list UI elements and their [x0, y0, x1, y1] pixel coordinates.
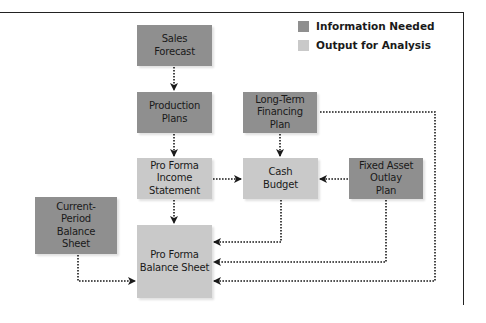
- node-label: Fixed Asset Outlay Plan: [359, 160, 413, 198]
- node-current-period-balance-sheet: Current- Period Balance Sheet: [35, 197, 117, 254]
- node-pro-forma-balance-sheet: Pro Forma Balance Sheet: [137, 225, 212, 298]
- node-label: Production Plans: [149, 100, 200, 125]
- node-pro-forma-income-statement: Pro Forma Income Statement: [137, 158, 212, 199]
- node-production-plans: Production Plans: [137, 92, 212, 133]
- node-cash-budget: Cash Budget: [243, 158, 318, 199]
- node-sales-forecast: Sales Forecast: [137, 25, 212, 66]
- node-long-term-financing-plan: Long-Term Financing Plan: [243, 92, 317, 133]
- node-fixed-asset-outlay-plan: Fixed Asset Outlay Plan: [349, 158, 423, 199]
- node-label: Long-Term Financing Plan: [255, 94, 304, 132]
- node-label: Pro Forma Income Statement: [149, 160, 200, 198]
- node-label: Pro Forma Balance Sheet: [140, 249, 209, 274]
- node-label: Current- Period Balance Sheet: [56, 201, 96, 251]
- node-label: Sales Forecast: [154, 33, 195, 58]
- node-label: Cash Budget: [263, 166, 298, 191]
